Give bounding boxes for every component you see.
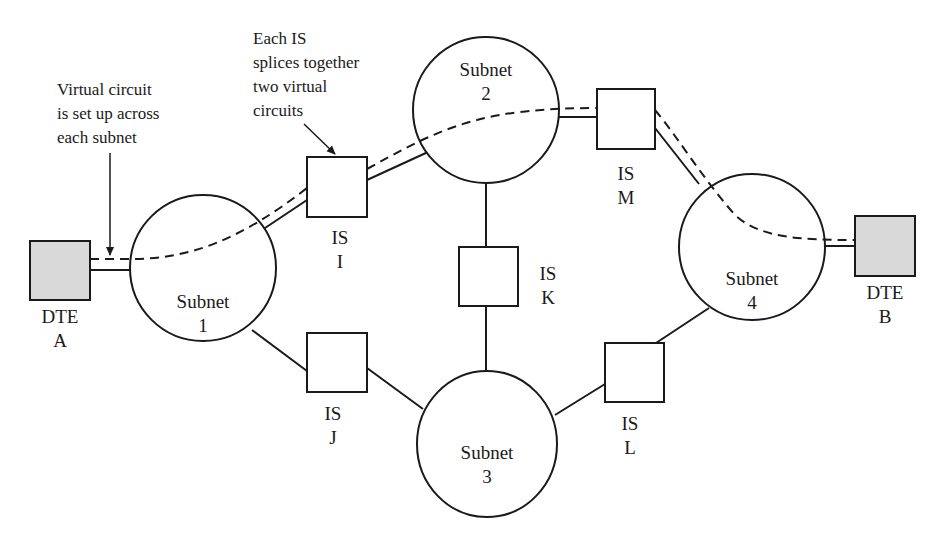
diagram-svg: Virtual circuit is set up across each su… <box>0 0 943 542</box>
link-is-l-subnet-4 <box>656 308 709 343</box>
annotation-line: each subnet <box>57 128 137 147</box>
is-splice-arrow <box>304 124 335 154</box>
link-is-i-subnet-2 <box>367 152 428 180</box>
is-k-box <box>459 247 518 306</box>
is-j-label: IS <box>325 403 342 424</box>
dte-a-id: A <box>53 330 67 351</box>
annotation-virtual-circuit: Virtual circuit is set up across each su… <box>57 80 159 147</box>
is-i-box <box>307 157 367 217</box>
dte-b-box <box>855 216 915 276</box>
dte-b-id: B <box>879 306 892 327</box>
subnet-4-label: Subnet <box>726 268 780 289</box>
is-m-id: M <box>618 187 635 208</box>
subnet-2-label: Subnet <box>460 59 514 80</box>
is-i-label: IS <box>332 227 349 248</box>
is-j-id: J <box>329 427 336 448</box>
link-subnet-3-is-l <box>555 384 605 415</box>
subnet-1-label: Subnet <box>177 291 231 312</box>
annotation-line: two virtual <box>253 77 327 96</box>
annotation-line: Each IS <box>253 29 306 48</box>
annotation-line: splices together <box>253 53 360 72</box>
subnet-3-label: Subnet <box>461 442 515 463</box>
annotation-line: Virtual circuit <box>57 80 152 99</box>
is-k-label: IS <box>540 263 557 284</box>
annotation-line: is set up across <box>57 104 159 123</box>
link-is-j-subnet-3 <box>367 368 423 409</box>
subnet-4-number: 4 <box>747 292 757 313</box>
subnet-2-number: 2 <box>481 83 491 104</box>
link-is-m-subnet-4 <box>655 128 699 184</box>
link-subnet-1-is-j <box>252 330 307 371</box>
dte-b-label: DTE <box>867 282 904 303</box>
dte-a-box <box>30 241 90 300</box>
is-l-box <box>605 343 664 402</box>
is-j-box <box>307 333 367 392</box>
annotation-is-splice: Each IS splices together two virtual cir… <box>253 29 360 120</box>
dte-a-label: DTE <box>42 306 79 327</box>
is-l-id: L <box>624 437 636 458</box>
is-i-id: I <box>337 251 343 272</box>
link-subnet-1-is-i <box>265 200 307 228</box>
is-k-id: K <box>541 287 555 308</box>
subnet-1-number: 1 <box>198 315 208 336</box>
network-diagram: Virtual circuit is set up across each su… <box>0 0 943 542</box>
subnet-3-number: 3 <box>482 466 492 487</box>
is-l-label: IS <box>622 413 639 434</box>
is-m-label: IS <box>618 163 635 184</box>
annotation-line: circuits <box>253 101 303 120</box>
is-m-box <box>597 89 655 149</box>
